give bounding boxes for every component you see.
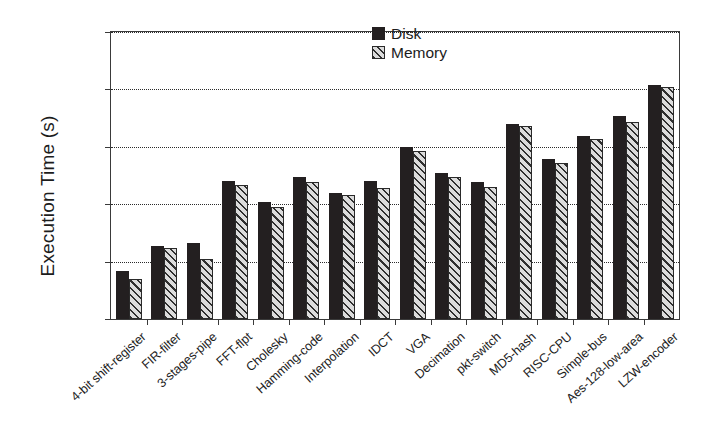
bar-memory	[413, 151, 426, 319]
bar-memory	[377, 188, 390, 319]
y-axis-tick-mark	[105, 89, 111, 90]
bar-disk	[542, 159, 555, 319]
bar-disk	[364, 181, 377, 319]
plot-area	[110, 31, 680, 320]
legend-swatch-memory-icon	[372, 46, 385, 59]
bar-memory	[448, 177, 461, 319]
bar-group	[608, 116, 644, 319]
chart-legend: Disk Memory	[372, 26, 447, 60]
bar-memory	[164, 248, 177, 319]
bar-disk	[435, 173, 448, 319]
bar-memory	[590, 139, 603, 319]
bar-memory	[129, 279, 142, 319]
legend-label-memory: Memory	[391, 45, 447, 61]
bar-group	[644, 85, 680, 319]
bar-memory	[661, 87, 674, 319]
bar-disk	[187, 243, 200, 319]
bar-disk	[648, 85, 661, 319]
x-axis-tick-mark	[253, 319, 254, 325]
x-axis-tick-mark	[608, 319, 609, 325]
bar-group	[324, 193, 360, 319]
y-axis-tick-mark	[105, 32, 111, 33]
bar-memory	[271, 207, 284, 319]
legend-item-disk: Disk	[372, 26, 447, 42]
bar-group	[111, 271, 147, 320]
bar-memory	[200, 259, 213, 319]
bar-disk	[222, 181, 235, 319]
bar-disk	[577, 136, 590, 319]
bar-disk	[116, 271, 129, 320]
legend-item-memory: Memory	[372, 45, 447, 61]
x-axis-tick-mark	[431, 319, 432, 325]
y-axis-tick-mark	[105, 262, 111, 263]
bar-memory	[306, 182, 319, 319]
bar-memory	[235, 185, 248, 319]
y-axis-tick-mark	[105, 204, 111, 205]
bar-group	[431, 173, 467, 319]
bar-group	[218, 181, 254, 319]
x-axis-tick-mark	[537, 319, 538, 325]
bar-group	[182, 243, 218, 319]
bar-group	[360, 181, 396, 319]
x-axis-tick-mark	[182, 319, 183, 325]
bar-group	[466, 182, 502, 319]
bar-memory	[555, 163, 568, 319]
x-axis-tick-mark	[502, 319, 503, 325]
bar-disk	[400, 147, 413, 319]
bar-group	[537, 159, 573, 319]
bar-chart-figure: Execution Time (s) 100000100001000100101…	[0, 0, 707, 448]
bar-disk	[506, 124, 519, 319]
bar-group	[289, 177, 325, 319]
legend-label-disk: Disk	[391, 26, 421, 42]
bar-disk	[613, 116, 626, 319]
bar-memory	[626, 122, 639, 319]
bar-disk	[258, 202, 271, 319]
x-axis-tick-mark	[289, 319, 290, 325]
x-axis-tick-mark	[147, 319, 148, 325]
x-axis-tick-mark	[644, 319, 645, 325]
bar-group	[502, 124, 538, 319]
bar-series-container	[111, 32, 679, 319]
x-axis-tick-mark	[573, 319, 574, 325]
x-axis-tick-mark	[395, 319, 396, 325]
y-axis-title: Execution Time (s)	[37, 66, 59, 326]
bar-memory	[342, 195, 355, 319]
bar-memory	[519, 126, 532, 319]
y-axis-tick-mark	[105, 319, 111, 320]
bar-group	[147, 246, 183, 319]
bar-memory	[484, 187, 497, 319]
bar-disk	[471, 182, 484, 319]
y-axis-tick-mark	[105, 147, 111, 148]
bar-group	[395, 147, 431, 319]
bar-group	[573, 136, 609, 319]
legend-swatch-disk-icon	[372, 27, 385, 40]
x-axis-tick-mark	[360, 319, 361, 325]
x-axis-tick-mark	[466, 319, 467, 325]
bar-group	[253, 202, 289, 319]
bar-disk	[151, 246, 164, 319]
bar-disk	[293, 177, 306, 319]
bar-disk	[329, 193, 342, 319]
x-axis-tick-mark	[324, 319, 325, 325]
x-axis-tick-mark	[218, 319, 219, 325]
